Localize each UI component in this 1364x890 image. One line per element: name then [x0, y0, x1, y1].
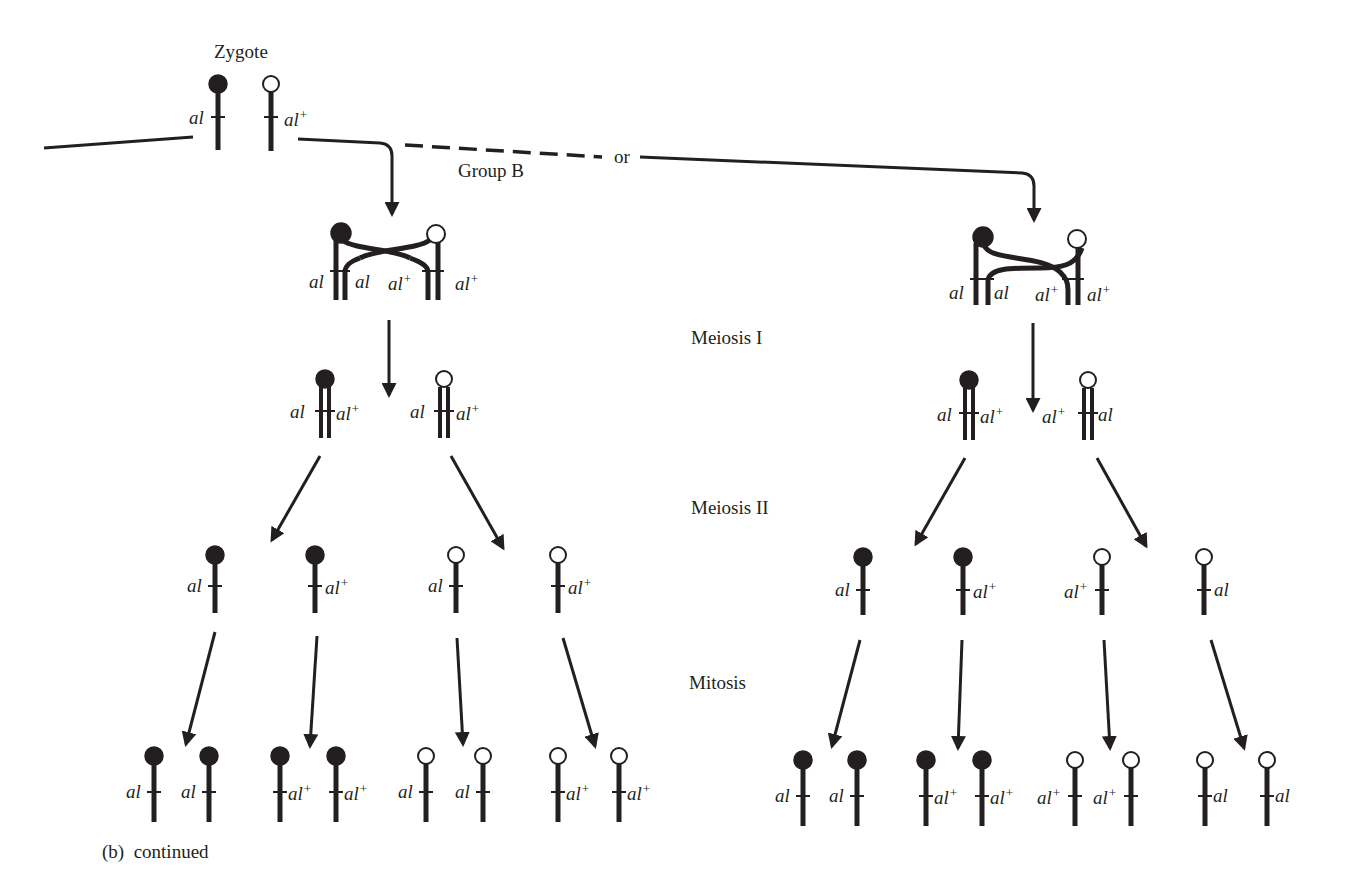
right-mitosis-chromosome-1: [794, 751, 812, 826]
right-mi-1-left-allele: al: [937, 405, 952, 424]
left-mitosis-allele-8: al+: [627, 782, 650, 803]
zygote-allele-left: al: [189, 108, 204, 127]
right-mii-chromosome-3: [1094, 549, 1110, 615]
right-mitosis-chromosome-7: [1197, 752, 1213, 826]
right-mitosis-allele-5: al+: [1037, 786, 1060, 807]
mitosis-arrow-l1: [186, 632, 215, 744]
left-mitosis-allele-6: al: [455, 782, 470, 801]
right-tetrad-allele-2: al: [994, 283, 1009, 302]
right-mitosis-chromosome-8: [1259, 752, 1275, 826]
right-mitosis-allele-4: al+: [990, 786, 1013, 807]
right-tetrad-allele-3: al+: [1035, 283, 1058, 304]
left-mitosis-chromosome-5: [418, 748, 434, 822]
left-mii-allele-3: al: [428, 576, 443, 595]
right-mii-chromosome-2: [954, 548, 972, 615]
left-mi-dyad-filled: [315, 370, 335, 438]
left-mii-allele-1: al: [187, 576, 202, 595]
right-mi-dyad-open: [1078, 372, 1098, 440]
arrow-to-right-tetrad: [640, 157, 1034, 220]
dashed-line-or: [405, 145, 602, 157]
right-mii-chromosome-4: [1196, 549, 1212, 615]
mii-arrow-right-1: [916, 458, 965, 544]
right-tetrad-allele-1: al: [949, 283, 964, 302]
left-mitosis-chromosome-8: [611, 748, 627, 822]
arrow-to-left-tetrad: [298, 139, 392, 214]
right-mii-chromosome-1: [854, 548, 872, 615]
left-mi-2-right-allele: al+: [456, 402, 479, 423]
mitosis-arrow-r4: [1211, 640, 1244, 748]
left-tetrad-allele-3: al+: [388, 272, 411, 293]
mii-arrow-left-2: [451, 456, 503, 548]
left-mii-chromosome-1: [206, 546, 224, 613]
mitosis-arrow-r3: [1104, 640, 1110, 748]
right-tetrad: [970, 227, 1086, 305]
right-mii-allele-2: al+: [973, 580, 996, 601]
right-mitosis-allele-3: al+: [934, 786, 957, 807]
right-mii-allele-3: al+: [1064, 580, 1087, 601]
left-tetrad-allele-4: al+: [455, 272, 478, 293]
left-mi-1-right-allele: al+: [336, 402, 359, 423]
right-mitosis-chromosome-4: [973, 751, 991, 826]
mii-arrow-right-2: [1097, 458, 1146, 546]
mitosis-arrow-l4: [563, 638, 595, 746]
incoming-line: [44, 137, 193, 148]
stage-mitosis: Mitosis: [689, 673, 746, 692]
left-mitosis-chromosome-4: [327, 747, 345, 822]
or-label: or: [614, 147, 630, 166]
zygote-label: Zygote: [214, 42, 268, 61]
left-mi-2-left-allele: al: [410, 402, 425, 421]
zygote-chromosome-open: [263, 76, 279, 151]
left-mii-allele-2: al+: [325, 576, 348, 597]
right-mitosis-chromosome-2: [848, 751, 866, 826]
left-mitosis-allele-5: al: [398, 782, 413, 801]
right-mitosis-chromosome-5: [1067, 752, 1083, 826]
right-mitosis-allele-7: al: [1213, 786, 1228, 805]
stage-meiosis-i: Meiosis I: [691, 328, 762, 347]
left-mitosis-allele-3: al+: [288, 782, 311, 803]
left-mii-allele-4: al+: [568, 576, 591, 597]
left-mitosis-chromosome-2: [200, 747, 218, 822]
left-mi-dyad-open: [434, 371, 454, 438]
right-mi-dyad-filled: [959, 371, 979, 440]
left-mii-chromosome-3: [448, 547, 464, 613]
right-mitosis-chromosome-6: [1123, 752, 1139, 826]
meiosis-diagram: [0, 0, 1364, 890]
left-mitosis-chromosome-6: [475, 748, 491, 822]
group-label: Group B: [458, 161, 524, 180]
right-mi-2-left-allele: al+: [1042, 405, 1065, 426]
right-mitosis-chromosome-3: [917, 751, 935, 826]
right-mi-1-right-allele: al+: [980, 405, 1003, 426]
left-tetrad-allele-2: al: [355, 272, 370, 291]
meiosis-ii-products: [206, 546, 1212, 615]
left-mitosis-chromosome-1: [145, 747, 163, 822]
right-mii-allele-4: al: [1214, 580, 1229, 599]
left-mii-chromosome-2: [306, 546, 324, 613]
mii-arrow-left-1: [272, 456, 320, 540]
zygote-chromosome-filled: [209, 75, 227, 150]
right-mitosis-allele-8: al: [1275, 786, 1290, 805]
zygote-allele-right: al+: [284, 108, 307, 129]
figure-caption: (b) continued: [102, 842, 209, 861]
left-mitosis-allele-7: al+: [566, 782, 589, 803]
right-mi-2-right-allele: al: [1098, 405, 1113, 424]
left-mitosis-chromosome-7: [550, 748, 566, 822]
mitosis-arrow-l3: [457, 638, 463, 744]
left-mitosis-chromosome-3: [271, 747, 289, 822]
right-mii-allele-1: al: [835, 580, 850, 599]
right-mitosis-allele-1: al: [775, 786, 790, 805]
right-mitosis-allele-2: al: [829, 786, 844, 805]
mitosis-arrow-l2: [310, 636, 317, 746]
left-tetrad-allele-1: al: [309, 272, 324, 291]
mitosis-arrow-r2: [958, 640, 962, 748]
left-mitosis-allele-2: al: [181, 782, 196, 801]
right-tetrad-allele-4: al+: [1087, 283, 1110, 304]
left-mitosis-allele-4: al+: [344, 782, 367, 803]
left-mii-chromosome-4: [550, 547, 566, 613]
stage-meiosis-ii: Meiosis II: [691, 498, 769, 517]
mitosis-arrow-r1: [832, 640, 860, 746]
left-mi-1-left-allele: al: [290, 402, 305, 421]
left-mitosis-allele-1: al: [126, 782, 141, 801]
right-mitosis-allele-6: al+: [1093, 786, 1116, 807]
